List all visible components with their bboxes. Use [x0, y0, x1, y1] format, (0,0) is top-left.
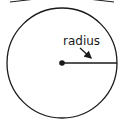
cut-off-top-text: [10, 0, 114, 2]
radius-label: radius: [63, 34, 100, 48]
circle-diagram: radius: [0, 0, 134, 133]
arrow-icon: [80, 48, 91, 58]
center-point: [59, 60, 65, 66]
